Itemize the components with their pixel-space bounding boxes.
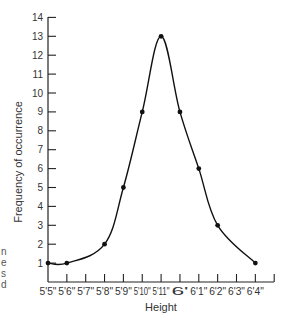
data-point [159, 34, 164, 39]
data-point [102, 242, 107, 247]
x-tick-label: 6'4" [247, 286, 264, 297]
data-point [121, 185, 126, 190]
x-tick-label: 5'8" [96, 286, 113, 297]
y-tick-label: 1 [37, 258, 43, 269]
y-tick-label: 3 [37, 220, 43, 231]
y-tick-label: 6 [37, 163, 43, 174]
data-points [46, 34, 258, 266]
data-point [46, 261, 51, 266]
y-tick-label: 12 [32, 50, 44, 61]
x-tick-label: 5'11" [153, 286, 170, 297]
frequency-curve [48, 36, 255, 264]
edge-text-fragment: n [1, 246, 7, 257]
edge-text-fragment: s [1, 268, 6, 279]
y-tick-label: 4 [37, 201, 43, 212]
data-point [215, 223, 220, 228]
x-tick-label: 5'6" [58, 286, 75, 297]
y-tick-label: 14 [32, 12, 44, 23]
x-tick-label: 6' [171, 286, 188, 297]
x-tick-label: 5'9" [115, 286, 132, 297]
y-tick-label: 5 [37, 182, 43, 193]
x-tick-label: 6'3" [228, 286, 245, 297]
data-point [196, 166, 201, 171]
x-tick-label: 5'10" [134, 286, 151, 297]
y-tick-label: 10 [32, 88, 44, 99]
x-tick-label: 5'7" [77, 286, 94, 297]
data-point [64, 261, 69, 266]
y-tick-label: 7 [37, 144, 43, 155]
data-point [178, 110, 183, 115]
x-axis-title: Height [145, 301, 177, 313]
y-tick-label: 2 [37, 239, 43, 250]
y-tick-label: 8 [37, 125, 43, 136]
data-point [253, 261, 258, 266]
y-axis-title: Frequency of occurrence [12, 101, 24, 223]
x-tick-label: 6'1" [190, 286, 207, 297]
x-ticks: 5'5"5'6"5'7"5'8"5'9"5'10"5'11"6'6'1"6'2"… [40, 274, 275, 297]
y-ticks: 1234567891011121314 [32, 12, 56, 269]
x-tick-label: 5'5" [40, 286, 57, 297]
y-tick-label: 13 [32, 31, 44, 42]
data-point [140, 110, 145, 115]
y-tick-label: 11 [33, 69, 44, 80]
edge-text-fragment: d [1, 279, 7, 290]
x-tick-label: 6'2" [209, 286, 226, 297]
y-tick-label: 9 [37, 106, 43, 117]
edge-text-fragment: e [1, 257, 7, 268]
cropped-text-fragments: nesd [1, 246, 7, 290]
chart: 1234567891011121314 5'5"5'6"5'7"5'8"5'9"… [0, 0, 281, 322]
